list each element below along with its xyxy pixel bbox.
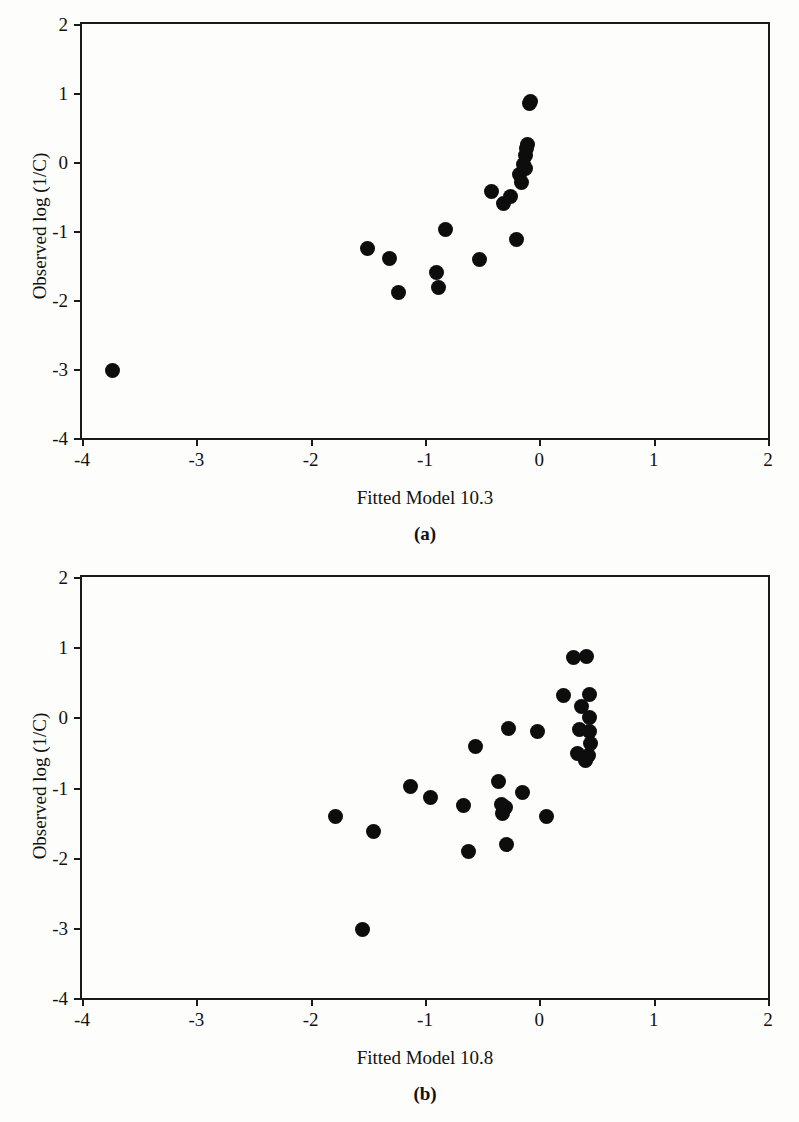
- data-point: [578, 753, 593, 768]
- data-point: [423, 790, 438, 805]
- data-point: [520, 137, 535, 152]
- x-tick-label-b: -2: [303, 1010, 319, 1029]
- x-tick-label-b: 0: [535, 1010, 545, 1029]
- y-tick-label-b: 1: [59, 638, 69, 657]
- x-axis-title-b: Fitted Model 10.8: [80, 1047, 770, 1069]
- y-tick-a: [74, 369, 82, 371]
- x-tick-label-a: -2: [303, 450, 319, 469]
- y-axis-title-a: Observed log (1/C): [29, 126, 51, 326]
- x-axis-title-a: Fitted Model 10.3: [80, 487, 770, 509]
- data-point: [539, 809, 554, 824]
- y-tick-b: [74, 647, 82, 649]
- x-tick-label-a: -4: [74, 450, 90, 469]
- x-tick-label-a: 1: [649, 450, 659, 469]
- data-point: [491, 774, 506, 789]
- plot-canvas-b: -4-3-2-1012-4-3-2-1012: [82, 577, 768, 998]
- y-tick-label-b: -3: [52, 918, 68, 937]
- data-point: [556, 688, 571, 703]
- data-point: [499, 837, 514, 852]
- data-point: [403, 779, 418, 794]
- data-point: [105, 363, 120, 378]
- plot-frame-b: -4-3-2-1012-4-3-2-1012: [80, 575, 770, 1000]
- data-point: [501, 721, 516, 736]
- y-tick-label-a: -2: [52, 291, 68, 310]
- data-point: [456, 798, 471, 813]
- y-tick-label-a: 2: [59, 15, 69, 34]
- data-point: [382, 251, 397, 266]
- x-tick-a: [539, 438, 541, 446]
- plot-frame-a: -4-3-2-1012-4-3-2-1012: [80, 22, 770, 440]
- y-tick-label-a: -4: [52, 429, 68, 448]
- x-tick-b: [768, 998, 770, 1006]
- scatter-panel-a: -4-3-2-1012-4-3-2-1012 Observed log (1/C…: [0, 0, 799, 560]
- data-point: [509, 232, 524, 247]
- x-tick-b: [82, 998, 84, 1006]
- data-point: [438, 222, 453, 237]
- data-point: [328, 809, 343, 824]
- data-point: [530, 724, 545, 739]
- y-tick-a: [74, 438, 82, 440]
- y-tick-a: [74, 300, 82, 302]
- y-tick-b: [74, 928, 82, 930]
- y-tick-label-b: 0: [59, 708, 69, 727]
- panel-caption-a: (a): [80, 523, 770, 545]
- data-point: [461, 844, 476, 859]
- y-tick-label-b: -2: [52, 848, 68, 867]
- y-tick-b: [74, 788, 82, 790]
- figure-page: -4-3-2-1012-4-3-2-1012 Observed log (1/C…: [0, 0, 799, 1122]
- x-tick-label-a: -3: [188, 450, 204, 469]
- x-tick-b: [196, 998, 198, 1006]
- data-point: [518, 161, 533, 176]
- y-tick-label-a: 0: [59, 153, 69, 172]
- y-tick-a: [74, 93, 82, 95]
- data-point: [579, 649, 594, 664]
- x-tick-a: [311, 438, 313, 446]
- y-tick-label-b: -4: [52, 989, 68, 1008]
- y-tick-label-b: 2: [59, 568, 69, 587]
- y-tick-label-a: -1: [52, 222, 68, 241]
- data-point: [515, 785, 530, 800]
- data-point: [514, 175, 529, 190]
- y-tick-a: [74, 162, 82, 164]
- data-point: [391, 285, 406, 300]
- data-point: [366, 824, 381, 839]
- x-tick-a: [654, 438, 656, 446]
- x-tick-b: [425, 998, 427, 1006]
- x-tick-label-b: -4: [74, 1010, 90, 1029]
- data-point: [429, 265, 444, 280]
- data-point: [468, 739, 483, 754]
- x-tick-label-b: -3: [188, 1010, 204, 1029]
- x-tick-label-b: 1: [649, 1010, 659, 1029]
- data-point: [495, 806, 510, 821]
- y-axis-title-b: Observed log (1/C): [29, 686, 51, 886]
- data-point: [472, 252, 487, 267]
- y-tick-label-b: -1: [52, 778, 68, 797]
- y-tick-b: [74, 577, 82, 579]
- y-tick-b: [74, 858, 82, 860]
- x-tick-label-b: 2: [763, 1010, 773, 1029]
- x-tick-label-a: 0: [535, 450, 545, 469]
- data-point: [582, 710, 597, 725]
- y-tick-a: [74, 231, 82, 233]
- data-point: [484, 184, 499, 199]
- x-tick-label-a: 2: [763, 450, 773, 469]
- y-tick-label-a: 1: [59, 84, 69, 103]
- panel-caption-b: (b): [80, 1083, 770, 1105]
- y-tick-b: [74, 998, 82, 1000]
- data-point: [355, 922, 370, 937]
- x-tick-a: [768, 438, 770, 446]
- data-point: [431, 280, 446, 295]
- x-tick-b: [654, 998, 656, 1006]
- x-tick-b: [539, 998, 541, 1006]
- x-tick-label-b: -1: [417, 1010, 433, 1029]
- x-tick-label-a: -1: [417, 450, 433, 469]
- data-point: [503, 189, 518, 204]
- x-tick-b: [311, 998, 313, 1006]
- y-tick-a: [74, 24, 82, 26]
- scatter-panel-b: -4-3-2-1012-4-3-2-1012: [0, 560, 799, 1122]
- x-tick-a: [82, 438, 84, 446]
- data-point: [360, 241, 375, 256]
- y-tick-b: [74, 717, 82, 719]
- x-tick-a: [425, 438, 427, 446]
- y-tick-label-a: -3: [52, 360, 68, 379]
